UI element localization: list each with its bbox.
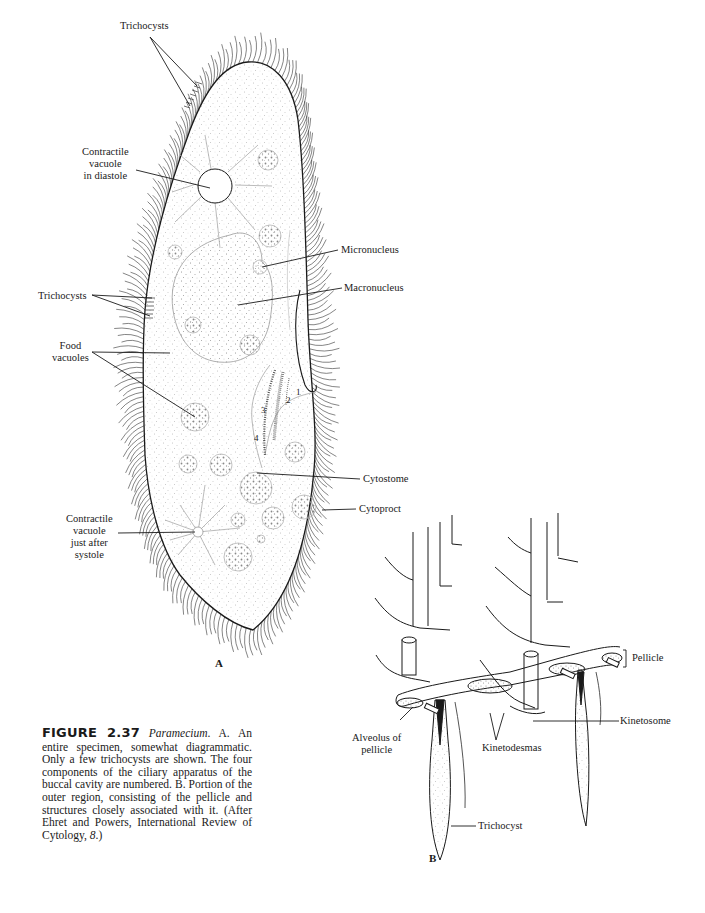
figure-caption: FIGURE 2.37 Paramecium. A. An entire spe… [42, 727, 252, 841]
caption-body: . A. An entire specimen, somewhat diagra… [42, 727, 252, 841]
label-macronucleus: Macronucleus [344, 282, 403, 294]
paramecium-body-group [113, 33, 340, 658]
label-kinetosome: Kinetosome [620, 715, 671, 727]
panel-letter-b: B [429, 852, 436, 864]
label-kinetodesmas: Kinetodesmas [482, 742, 542, 754]
buccal-number-1: 1 [296, 386, 301, 398]
label-cytostome: Cytostome [363, 473, 409, 485]
label-trichocysts-mid: Trichocysts [38, 290, 87, 302]
label-contractile-vacuole-systole: Contractile vacuole just after systole [66, 513, 113, 561]
figure-species: Paramecium [149, 727, 208, 739]
micronucleus [253, 260, 267, 274]
label-trichocysts-top: Trichocysts [120, 20, 169, 32]
buccal-number-4: 4 [254, 432, 259, 444]
label-pellicle: Pellicle [632, 652, 664, 664]
label-food-vacuoles: Food vacuoles [52, 340, 89, 364]
buccal-number-3: 3 [261, 404, 266, 416]
label-micronucleus: Micronucleus [341, 244, 399, 256]
label-cytoproct: Cytoproct [359, 503, 401, 515]
buccal-number-2: 2 [286, 394, 291, 406]
figure-label: FIGURE 2.37 [42, 727, 140, 740]
label-contractile-vacuole-diastole: Contractile vacuole in diastole [82, 146, 129, 182]
panel-letter-a: A [215, 657, 223, 669]
pellicle-structure-drawing [375, 513, 622, 860]
label-alveolus-of-pellicle: Alveolus of pellicle [352, 732, 401, 756]
label-trichocyst: Trichocyst [478, 820, 523, 832]
